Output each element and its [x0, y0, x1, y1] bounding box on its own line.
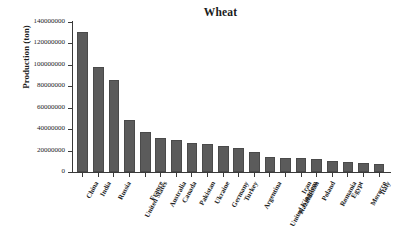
x-tick-mark — [379, 173, 380, 177]
x-tick-mark — [347, 173, 348, 177]
x-label-slot: China — [75, 178, 91, 248]
bar-slot — [278, 22, 294, 172]
bar-slot — [184, 22, 200, 172]
x-label-slot: India — [91, 178, 107, 248]
x-tick-mark — [363, 173, 364, 177]
x-tick-mark — [191, 173, 192, 177]
bar-slot — [262, 22, 278, 172]
x-label-slot: Russia — [106, 178, 122, 248]
x-label-slot: Poland — [309, 178, 325, 248]
bar-slot — [75, 22, 91, 172]
x-label-slot: Italy — [371, 178, 387, 248]
x-label-slot: Egypt — [340, 178, 356, 248]
plot-area: 0200000004000000060000000800000001000000… — [72, 22, 390, 172]
x-tick — [231, 173, 247, 177]
x-label-slot: Canada — [169, 178, 185, 248]
x-tick-mark — [316, 173, 317, 177]
bar[interactable] — [327, 161, 338, 172]
x-tick-label: Italy — [379, 180, 393, 196]
bar-slot — [106, 22, 122, 172]
x-axis-labels: ChinaIndiaRussiaUnited StatesFranceAustr… — [72, 178, 390, 248]
bar[interactable] — [249, 152, 260, 172]
y-tick-label: 20000000 — [37, 146, 65, 154]
y-tick-label: 0 — [62, 167, 66, 175]
x-label-slot: Pakistan — [184, 178, 200, 248]
y-tick-label: 60000000 — [37, 103, 65, 111]
x-tick-mark — [113, 173, 114, 177]
x-tick — [122, 173, 138, 177]
y-tick-label: 100000000 — [34, 60, 66, 68]
bar-slot — [91, 22, 107, 172]
x-label-slot: France — [137, 178, 153, 248]
bar[interactable] — [311, 159, 322, 172]
bar[interactable] — [218, 146, 229, 172]
bar[interactable] — [140, 132, 151, 172]
x-label-slot: United States — [122, 178, 138, 248]
x-tick-mark — [176, 173, 177, 177]
bar-slot — [137, 22, 153, 172]
bar[interactable] — [155, 138, 166, 172]
bar[interactable] — [233, 148, 244, 172]
x-axis-ticks — [72, 173, 390, 177]
bar-slot — [356, 22, 372, 172]
x-label-slot: Australia — [153, 178, 169, 248]
x-label-slot: Kazakhstan — [278, 178, 294, 248]
y-tick-label: 120000000 — [34, 38, 66, 46]
bar-slot — [215, 22, 231, 172]
bar-slot — [340, 22, 356, 172]
bar-slot — [200, 22, 216, 172]
x-tick — [153, 173, 169, 177]
x-tick-mark — [207, 173, 208, 177]
bar-slot — [247, 22, 263, 172]
x-label-slot: Turkey — [231, 178, 247, 248]
x-tick-mark — [269, 173, 270, 177]
bar-slot — [293, 22, 309, 172]
x-tick — [91, 173, 107, 177]
bar-slot — [169, 22, 185, 172]
x-label-slot: Germany — [215, 178, 231, 248]
x-tick — [278, 173, 294, 177]
x-tick — [371, 173, 387, 177]
bar[interactable] — [187, 143, 198, 172]
bar[interactable] — [202, 144, 213, 172]
x-tick-mark — [82, 173, 83, 177]
y-tick-label: 80000000 — [37, 81, 65, 89]
x-tick-mark — [238, 173, 239, 177]
bar[interactable] — [109, 80, 120, 172]
bar[interactable] — [358, 163, 369, 172]
x-tick-mark — [301, 173, 302, 177]
y-tick-label: 40000000 — [37, 124, 65, 132]
x-tick — [247, 173, 263, 177]
x-label-slot: Argentina — [247, 178, 263, 248]
x-tick-mark — [160, 173, 161, 177]
bar-slot — [231, 22, 247, 172]
x-tick-mark — [285, 173, 286, 177]
x-tick — [75, 173, 91, 177]
x-tick-mark — [145, 173, 146, 177]
bar[interactable] — [343, 162, 354, 172]
bar[interactable] — [280, 158, 291, 172]
bar[interactable] — [77, 32, 88, 172]
bar[interactable] — [124, 120, 135, 173]
x-tick — [106, 173, 122, 177]
x-tick-mark — [98, 173, 99, 177]
x-tick — [325, 173, 341, 177]
x-tick — [215, 173, 231, 177]
x-tick — [293, 173, 309, 177]
x-label-slot: United Kingdom — [262, 178, 278, 248]
bar[interactable] — [296, 158, 307, 172]
bar[interactable] — [265, 157, 276, 172]
x-tick — [340, 173, 356, 177]
bar-slot — [122, 22, 138, 172]
bar[interactable] — [374, 164, 385, 172]
x-tick — [356, 173, 372, 177]
x-tick — [137, 173, 153, 177]
bar[interactable] — [171, 140, 182, 172]
bar-series — [72, 22, 390, 172]
x-tick — [309, 173, 325, 177]
bar[interactable] — [93, 67, 104, 172]
x-label-slot: Morocco — [356, 178, 372, 248]
bar-slot — [371, 22, 387, 172]
y-axis-title: Production (ton) — [21, 0, 31, 127]
x-tick — [200, 173, 216, 177]
